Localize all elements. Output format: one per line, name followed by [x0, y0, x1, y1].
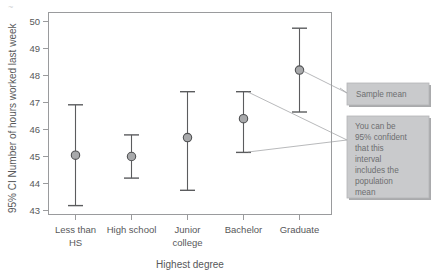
y-tick-label: 46 — [29, 124, 40, 135]
annotation-sample-mean: Sample mean — [347, 83, 431, 107]
cropped-glyph: ~ — [8, 2, 13, 12]
y-tick-label: 48 — [29, 70, 40, 81]
annotation-confidence-line: population — [355, 177, 393, 186]
x-tick-label-graduate: Graduate — [280, 224, 320, 235]
x-tick-label-less-than-hs-line2: HS — [69, 237, 82, 248]
x-tick-label-bachelor: Bachelor — [225, 224, 263, 235]
annotation-sample-mean-label: Sample mean — [356, 90, 407, 99]
datapoint-bachelor — [236, 92, 251, 153]
datapoint-junior-college — [180, 92, 195, 191]
y-axis-ticks — [43, 22, 49, 211]
annotation-confidence-explanation: You can be 95% confident that this inter… — [347, 116, 431, 200]
x-axis-title: Highest degree — [156, 259, 224, 270]
x-tick-label-less-than-hs: Less than — [55, 224, 96, 235]
datapoint-graduate — [292, 28, 307, 112]
annotation-confidence-line: that this — [355, 144, 384, 153]
x-axis-ticks — [76, 215, 300, 221]
mean-marker — [71, 151, 79, 159]
mean-marker — [127, 152, 135, 160]
y-axis-tick-labels: 50 49 48 47 46 45 44 43 — [29, 16, 40, 216]
y-tick-label: 47 — [29, 97, 40, 108]
x-tick-label-high-school: High school — [107, 224, 157, 235]
y-tick-label: 45 — [29, 151, 40, 162]
mean-marker — [183, 133, 191, 141]
plot-frame — [49, 13, 332, 215]
annotation-confidence-line: 95% confident — [355, 133, 408, 142]
y-tick-label: 44 — [29, 178, 40, 189]
x-tick-label-junior-college-line2: college — [172, 237, 202, 248]
x-tick-label-junior-college: Junior — [175, 224, 201, 235]
chart-canvas: ~ 50 49 48 47 46 45 44 43 95% CI Number … — [0, 0, 433, 280]
y-tick-label: 49 — [29, 43, 40, 54]
confidence-interval-chart: ~ 50 49 48 47 46 45 44 43 95% CI Number … — [0, 0, 433, 280]
x-axis-tick-labels: Less than HS High school Junior college … — [55, 224, 319, 248]
y-tick-label: 43 — [29, 205, 40, 216]
datapoint-high-school — [124, 135, 139, 178]
y-axis-title: 95% CI Number of hours worked last week — [7, 22, 18, 213]
datapoint-less-than-hs — [68, 105, 83, 206]
annotation-confidence-line: mean — [355, 188, 376, 197]
mean-marker — [239, 115, 247, 123]
annotation-confidence-line: interval — [355, 155, 382, 164]
mean-marker — [295, 66, 303, 74]
annotation-confidence-line: includes the — [355, 166, 399, 175]
annotation-confidence-line: You can be — [355, 122, 396, 131]
y-tick-label: 50 — [29, 16, 40, 27]
